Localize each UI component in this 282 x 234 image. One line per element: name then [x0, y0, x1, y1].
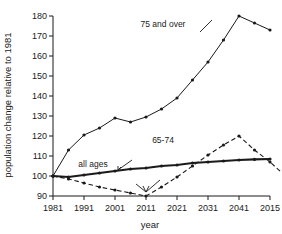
seventyfive-leader-icon: [200, 20, 212, 32]
annotation-layer: 75 and overall ages65-74: [78, 19, 185, 169]
y-axis-tick-labels: 90100110120130140150160170180: [32, 11, 47, 201]
x-tick-label: 2041: [229, 203, 249, 213]
x-tick-label: 1981: [43, 203, 63, 213]
data-point-marker: [191, 78, 194, 81]
data-point-marker: [175, 96, 178, 99]
y-axis-ticks: [49, 16, 53, 196]
data-point-marker: [144, 194, 147, 197]
sixtyfive-arrowhead-icon: [143, 186, 149, 192]
data-point-marker: [82, 133, 85, 136]
series-layer: [51, 14, 282, 197]
data-point-marker: [268, 157, 271, 160]
x-tick-label: 1991: [74, 203, 94, 213]
x-tick-label: 2031: [198, 203, 218, 213]
x-axis-ticks: [53, 196, 270, 200]
x-tick-label: 2011: [136, 203, 155, 213]
series-75-and-over: [51, 14, 271, 177]
series-annotation-all-ages: all ages: [78, 159, 107, 169]
y-tick-label: 120: [32, 131, 47, 141]
y-tick-label: 160: [32, 51, 47, 61]
data-point-marker: [191, 164, 194, 167]
data-point-marker: [222, 38, 225, 41]
data-point-marker: [98, 126, 101, 129]
population-change-line-chart: 90100110120130140150160170180 1981199120…: [0, 0, 282, 234]
x-axis-tick-labels: 19811991200120112021203120412015: [43, 203, 280, 213]
data-point-marker: [253, 148, 256, 151]
series-annotation-65-74: 65-74: [152, 135, 174, 145]
data-point-marker: [268, 160, 271, 163]
data-point-marker: [160, 164, 163, 167]
x-tick-label: 2015: [260, 203, 280, 213]
x-axis-group: 19811991200120112021203120412015: [43, 196, 280, 213]
y-axis-title: population change relative to 1981: [2, 32, 13, 177]
data-point-marker: [113, 188, 116, 191]
data-point-marker: [113, 116, 116, 119]
data-point-marker: [129, 120, 132, 123]
data-point-marker: [67, 148, 70, 151]
y-axis-group: 90100110120130140150160170180: [32, 11, 53, 201]
data-point-marker: [206, 160, 209, 163]
data-point-marker: [98, 171, 101, 174]
y-tick-label: 180: [32, 11, 47, 21]
data-point-marker: [113, 169, 116, 172]
data-point-marker: [222, 143, 225, 146]
y-tick-label: 140: [32, 91, 47, 101]
data-point-marker: [129, 191, 132, 194]
data-point-marker: [82, 173, 85, 176]
data-point-marker: [175, 175, 178, 178]
y-tick-label: 110: [33, 151, 47, 161]
x-axis-title: year: [141, 219, 159, 230]
data-point-marker: [175, 163, 178, 166]
data-point-marker: [253, 158, 256, 161]
x-tick-label: 2021: [167, 203, 187, 213]
y-tick-label: 150: [32, 71, 47, 81]
data-point-marker: [268, 28, 271, 31]
data-point-marker: [237, 14, 240, 17]
data-point-marker: [160, 185, 163, 188]
data-point-marker: [237, 158, 240, 161]
chart-svg: 90100110120130140150160170180 1981199120…: [0, 0, 282, 234]
data-point-marker: [67, 177, 70, 180]
data-point-marker: [222, 159, 225, 162]
series-annotation-75-and-over: 75 and over: [141, 19, 186, 29]
data-point-marker: [206, 153, 209, 156]
data-point-marker: [191, 161, 194, 164]
y-tick-label: 100: [32, 171, 47, 181]
series-line: [53, 16, 270, 176]
data-point-marker: [129, 167, 132, 170]
y-tick-label: 170: [32, 31, 47, 41]
data-point-marker: [237, 134, 240, 137]
data-point-marker: [82, 181, 85, 184]
data-point-marker: [160, 107, 163, 110]
data-point-marker: [51, 174, 54, 177]
data-point-marker: [144, 115, 147, 118]
data-point-marker: [206, 60, 209, 63]
sixtyfive-leader-right-icon: [146, 180, 160, 192]
data-point-marker: [144, 166, 147, 169]
x-tick-label: 2001: [105, 203, 125, 213]
data-point-marker: [253, 21, 256, 24]
y-tick-label: 130: [32, 111, 47, 121]
y-tick-label: 90: [37, 191, 47, 201]
data-point-marker: [98, 185, 101, 188]
